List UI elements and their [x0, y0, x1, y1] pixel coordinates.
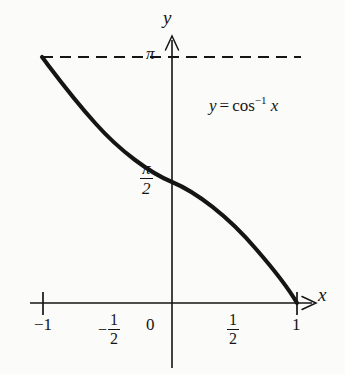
fraction-numerator: 1: [227, 312, 239, 330]
fraction-denominator: 2: [227, 330, 239, 347]
inverse-cosine-graph-figure: y x π π 2 −1 − 1 2 0 1 2 1 y=cos−1 x: [0, 0, 345, 374]
fraction-denominator: 2: [108, 330, 120, 347]
fraction-numerator: π: [140, 160, 153, 179]
x-tick-label-one-half: 1 2: [227, 312, 239, 347]
equation-annotation: y=cos−1 x: [209, 95, 278, 114]
x-tick-label-one: 1: [292, 316, 301, 333]
y-tick-label-pi: π: [146, 45, 155, 62]
x-tick-label-neg-one: −1: [34, 316, 52, 333]
x-axis-label: x: [318, 285, 326, 304]
fraction-pi-over-two: π 2: [140, 160, 153, 197]
equation-function-name: cos: [232, 96, 255, 115]
fraction-denominator: 2: [140, 179, 153, 197]
equation-argument: x: [271, 96, 279, 115]
signed-fraction: − 1 2: [98, 312, 120, 347]
equation-lhs: y: [209, 96, 217, 115]
equation-exponent: −1: [255, 94, 267, 106]
fraction-one-half: 1 2: [227, 312, 239, 347]
y-axis-label: y: [163, 8, 171, 27]
fraction-numerator: 1: [108, 312, 120, 330]
minus-sign: −: [98, 322, 107, 338]
y-tick-label-pi-over-two: π 2: [140, 160, 153, 197]
equation-equals-sign: =: [217, 96, 233, 115]
fraction-one-half: 1 2: [108, 312, 120, 347]
x-tick-label-zero: 0: [146, 316, 155, 333]
x-tick-label-neg-one-half: − 1 2: [98, 312, 120, 347]
